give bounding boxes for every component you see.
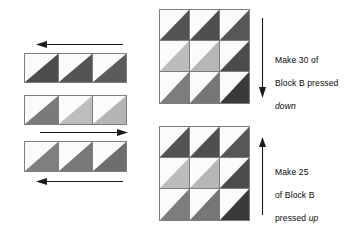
caption-line-2: of Block B bbox=[275, 190, 347, 201]
hst-unit bbox=[189, 126, 220, 158]
hst-unit bbox=[92, 95, 127, 125]
diagram-canvas: Make 30 of Block B pressed down bbox=[0, 0, 348, 236]
row-3-press-left-arrow bbox=[36, 177, 123, 186]
triangle-shape bbox=[93, 142, 126, 171]
hst-unit bbox=[219, 126, 250, 158]
caption-line-1: Make 25 bbox=[275, 167, 347, 178]
triangle-shape bbox=[93, 96, 126, 124]
caption-line-3-emphasis: down bbox=[275, 101, 347, 112]
triangle-shape bbox=[160, 10, 189, 40]
hst-unit bbox=[219, 40, 250, 72]
row-2-press-right-arrow bbox=[40, 128, 128, 137]
triangle-shape bbox=[25, 142, 58, 171]
hst-unit bbox=[219, 157, 250, 189]
hst-unit bbox=[159, 188, 190, 221]
triangle-shape bbox=[160, 189, 189, 220]
hst-unit bbox=[92, 53, 127, 83]
caption-line-2: Block B pressed bbox=[275, 78, 347, 89]
triangle-shape bbox=[160, 158, 189, 188]
hst-unit bbox=[24, 53, 59, 83]
pressed-up-arrow bbox=[258, 137, 267, 215]
caption-pressed-up: Make 25 of Block B pressed up bbox=[275, 156, 347, 236]
hst-unit bbox=[189, 157, 220, 189]
triangle-shape bbox=[25, 96, 58, 124]
triangle-shape bbox=[190, 158, 219, 188]
hst-unit bbox=[24, 141, 59, 172]
hst-unit bbox=[159, 40, 190, 72]
row-1 bbox=[24, 53, 129, 83]
triangle-shape bbox=[160, 41, 189, 71]
hst-unit bbox=[219, 9, 250, 41]
triangle-shape bbox=[160, 72, 189, 103]
triangle-shape bbox=[220, 158, 249, 188]
triangle-shape bbox=[59, 96, 92, 124]
triangle-shape bbox=[190, 72, 219, 103]
hst-unit bbox=[219, 71, 250, 104]
triangle-shape bbox=[59, 54, 92, 82]
hst-unit bbox=[159, 9, 190, 41]
block-b-pressed-up bbox=[159, 126, 250, 221]
hst-unit bbox=[189, 9, 220, 41]
caption-line-1: Make 30 of bbox=[275, 55, 347, 66]
caption-line-3: pressed up bbox=[275, 213, 347, 224]
hst-unit bbox=[189, 40, 220, 72]
caption-line-3-pre: pressed bbox=[275, 213, 309, 223]
hst-unit bbox=[58, 53, 93, 83]
hst-unit bbox=[159, 71, 190, 104]
triangle-shape bbox=[220, 10, 249, 40]
hst-unit bbox=[189, 188, 220, 221]
pressed-down-arrow bbox=[258, 18, 267, 98]
triangle-shape bbox=[25, 54, 58, 82]
triangle-shape bbox=[190, 127, 219, 157]
triangle-shape bbox=[220, 41, 249, 71]
row-3 bbox=[24, 141, 129, 172]
hst-unit bbox=[24, 95, 59, 125]
caption-line-3-emphasis: up bbox=[309, 213, 319, 223]
triangle-shape bbox=[93, 54, 126, 82]
hst-unit bbox=[159, 157, 190, 189]
triangle-shape bbox=[190, 41, 219, 71]
row-1-press-left-arrow bbox=[36, 40, 123, 49]
block-b-pressed-down bbox=[159, 9, 250, 104]
triangle-shape bbox=[190, 10, 219, 40]
hst-unit bbox=[189, 71, 220, 104]
hst-unit bbox=[58, 141, 93, 172]
hst-unit bbox=[58, 95, 93, 125]
triangle-shape bbox=[220, 127, 249, 157]
triangle-shape bbox=[59, 142, 92, 171]
triangle-shape bbox=[220, 189, 249, 220]
hst-unit bbox=[92, 141, 127, 172]
triangle-shape bbox=[160, 127, 189, 157]
caption-pressed-down: Make 30 of Block B pressed down bbox=[275, 44, 347, 124]
hst-unit bbox=[159, 126, 190, 158]
hst-unit bbox=[219, 188, 250, 221]
triangle-shape bbox=[220, 72, 249, 103]
row-2 bbox=[24, 95, 129, 125]
triangle-shape bbox=[190, 189, 219, 220]
